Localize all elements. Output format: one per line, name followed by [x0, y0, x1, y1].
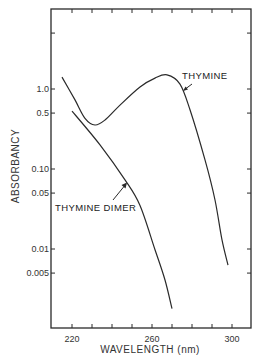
y-axis-title: ABSORBANCY	[10, 129, 21, 203]
x-tick-label-220: 220	[64, 334, 79, 344]
x-tick-label-260: 260	[144, 334, 159, 344]
x-axis-ticks	[72, 9, 232, 328]
absorbance-chart: 220 260 300 1.0 0.5 0.10 0.05 0.01 0.005…	[0, 0, 259, 359]
y-tick-label-0.05: 0.05	[31, 188, 49, 198]
x-tick-label-300: 300	[224, 334, 239, 344]
thymine-dimer-arrow	[113, 183, 127, 201]
y-tick-label-0.10: 0.10	[31, 164, 49, 174]
x-axis-title: WAVELENGTH (nm)	[100, 344, 200, 355]
thymine-curve	[62, 75, 228, 265]
y-tick-label-1.0: 1.0	[36, 84, 49, 94]
thymine-arrow	[183, 84, 192, 91]
y-tick-label-0.5: 0.5	[36, 108, 49, 118]
thymine-dimer-label: THYMINE DIMER	[55, 202, 136, 213]
thymine-label: THYMINE	[182, 70, 228, 81]
y-tick-label-0.01: 0.01	[31, 244, 49, 254]
plot-frame	[51, 9, 251, 328]
y-tick-label-0.005: 0.005	[26, 268, 49, 278]
